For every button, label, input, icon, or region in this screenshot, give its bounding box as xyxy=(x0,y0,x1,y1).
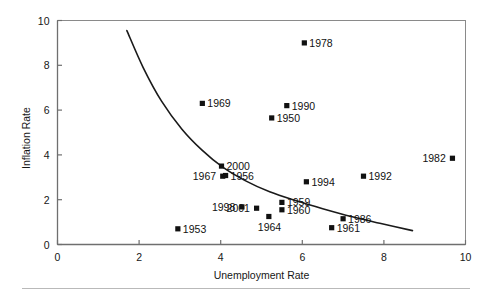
point-label: 1982 xyxy=(422,152,445,164)
axis-ticks xyxy=(58,21,466,245)
point-label: 1960 xyxy=(287,204,310,216)
x-tick-label: 0 xyxy=(44,251,72,263)
plot-canvas xyxy=(0,0,492,296)
point-label: 1994 xyxy=(311,176,334,188)
point-label: 1967 xyxy=(193,170,216,182)
x-tick-label: 10 xyxy=(452,251,480,263)
x-axis-title: Unemployment Rate xyxy=(207,269,317,281)
point-label: 1986 xyxy=(348,213,371,225)
plot-frame xyxy=(58,21,466,245)
y-tick-label: 8 xyxy=(24,59,50,71)
phillips-curve-line xyxy=(127,31,413,231)
x-tick-label: 4 xyxy=(207,251,235,263)
point-label: 2001 xyxy=(227,202,250,214)
x-tick-label: 6 xyxy=(288,251,316,263)
chart-page: 02468100246810 1953196920001967195619982… xyxy=(0,0,492,296)
point-label: 1992 xyxy=(369,170,392,182)
x-tick-label: 8 xyxy=(370,251,398,263)
y-tick-label: 10 xyxy=(24,15,50,27)
point-label: 1969 xyxy=(207,97,230,109)
point-label: 1953 xyxy=(183,223,206,235)
x-tick-label: 2 xyxy=(125,251,153,263)
y-tick-label: 2 xyxy=(24,194,50,206)
point-label: 1956 xyxy=(231,170,254,182)
point-label: 1978 xyxy=(309,37,332,49)
point-label: 1964 xyxy=(258,221,281,233)
point-label: 1990 xyxy=(292,100,315,112)
scatter-chart: 02468100246810 1953196920001967195619982… xyxy=(0,0,492,296)
y-axis-title: Inflation Rate xyxy=(20,107,32,169)
point-label: 1950 xyxy=(277,112,300,124)
y-tick-label: 0 xyxy=(24,239,50,251)
